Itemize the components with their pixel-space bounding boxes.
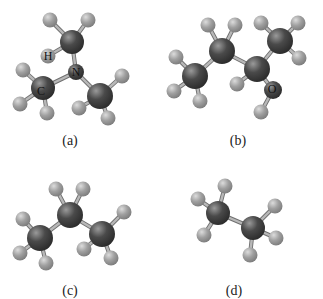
hydrogen-atom bbox=[167, 84, 182, 99]
hydrogen-atom bbox=[292, 51, 307, 66]
carbon-atom bbox=[87, 83, 113, 109]
panel-a-molecule: HNC bbox=[13, 13, 130, 126]
panel-c-molecule bbox=[13, 182, 132, 271]
carbon-atom bbox=[27, 225, 53, 251]
panel-d-molecule bbox=[191, 179, 284, 263]
hydrogen-atom bbox=[13, 97, 28, 112]
panel-b-molecule: O bbox=[167, 16, 307, 120]
hydrogen-atom bbox=[291, 16, 306, 31]
panel-d-caption: (d) bbox=[214, 283, 254, 299]
carbon-atom bbox=[267, 28, 293, 54]
hydrogen-atom bbox=[16, 212, 31, 227]
hydrogen-atom bbox=[254, 105, 269, 120]
hydrogen-atom bbox=[39, 256, 54, 271]
carbon-atom bbox=[57, 202, 83, 228]
hydrogen-atom bbox=[254, 16, 269, 31]
hydrogen-atom bbox=[117, 205, 132, 220]
hydrogen-atom bbox=[104, 251, 119, 266]
atom-label: N bbox=[72, 65, 81, 79]
carbon-atom bbox=[241, 216, 265, 240]
hydrogen-atom bbox=[115, 69, 130, 84]
carbon-atom bbox=[60, 30, 84, 54]
panel-c-caption: (c) bbox=[50, 283, 90, 299]
hydrogen-atom bbox=[191, 192, 206, 207]
hydrogen-atom bbox=[269, 231, 284, 246]
hydrogen-atom bbox=[228, 18, 243, 33]
hydrogen-atom bbox=[101, 111, 116, 126]
hydrogen-atom bbox=[197, 228, 212, 243]
carbon-atom bbox=[209, 38, 235, 64]
hydrogen-atom bbox=[218, 179, 233, 194]
hydrogen-atom bbox=[72, 101, 87, 116]
hydrogen-atom bbox=[243, 248, 258, 263]
hydrogen-atom bbox=[77, 242, 92, 257]
hydrogen-atom bbox=[76, 182, 91, 197]
molecule-diagram: HNC O bbox=[0, 0, 323, 299]
atom-label: O bbox=[268, 82, 277, 96]
hydrogen-atom bbox=[16, 63, 31, 78]
carbon-atom bbox=[89, 221, 115, 247]
hydrogen-atom bbox=[230, 77, 245, 92]
hydrogen-atom bbox=[40, 106, 55, 121]
hydrogen-atom bbox=[81, 13, 96, 28]
panel-a-caption: (a) bbox=[50, 133, 90, 149]
hydrogen-atom bbox=[13, 246, 28, 261]
atom-label: H bbox=[44, 49, 53, 63]
panel-b-caption: (b) bbox=[218, 133, 258, 149]
atom-label: C bbox=[37, 84, 45, 98]
hydrogen-atom bbox=[43, 13, 58, 28]
hydrogen-atom bbox=[268, 199, 283, 214]
hydrogen-atom bbox=[49, 182, 64, 197]
carbon-atom bbox=[182, 63, 208, 89]
hydrogen-atom bbox=[169, 50, 184, 65]
carbon-atom bbox=[244, 56, 270, 82]
carbon-atom bbox=[206, 201, 230, 225]
hydrogen-atom bbox=[201, 18, 216, 33]
hydrogen-atom bbox=[193, 94, 208, 109]
